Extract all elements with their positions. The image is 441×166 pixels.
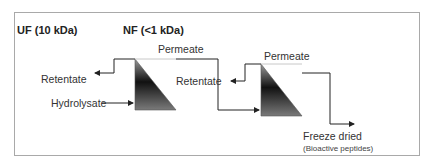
hydrolysate-label: Hydrolysate — [51, 97, 106, 109]
retentate-2-label: Retentate — [176, 75, 222, 87]
uf-stage-label: UF (10 kDa) — [17, 24, 78, 36]
retentate-2-arrow — [231, 64, 261, 81]
freeze-dried-label: Freeze dried — [303, 130, 362, 142]
permeate-1-label: Permeate — [158, 43, 204, 55]
permeate-2-arrow — [302, 73, 354, 124]
nf-stage-label: NF (<1 kDa) — [123, 24, 184, 36]
bioactive-peptides-note: (Bioactive peptides) — [303, 143, 373, 155]
nf-membrane-unit — [261, 64, 302, 116]
uf-membrane-unit — [135, 59, 176, 110]
permeate-2-label: Permeate — [264, 50, 310, 62]
retentate-1-arrow — [95, 59, 135, 73]
retentate-1-label: Retentate — [41, 73, 87, 85]
